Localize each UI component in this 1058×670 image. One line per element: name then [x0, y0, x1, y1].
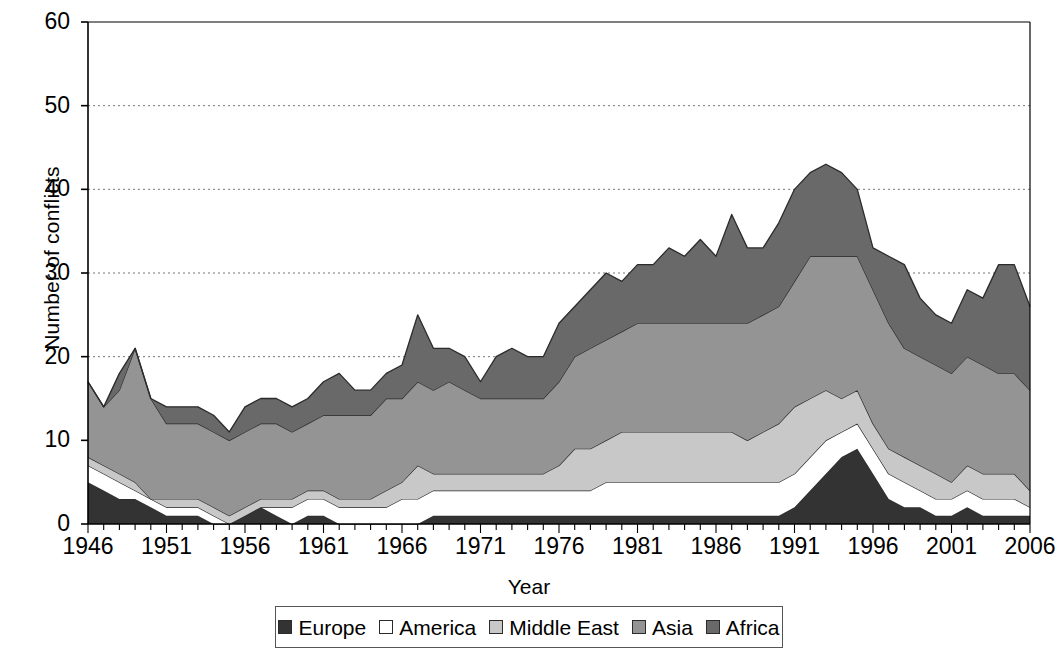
legend-label-asia: Asia: [652, 617, 693, 638]
legend-item[interactable]: Europe: [278, 617, 366, 638]
legend-label-america: America: [399, 617, 476, 638]
legend-swatch-middle-east: [489, 620, 503, 634]
legend-item[interactable]: Asia: [632, 617, 693, 638]
legend-item[interactable]: Africa: [706, 617, 780, 638]
chart-legend: Europe America Middle East Asia Africa: [275, 606, 783, 648]
legend-label-middle-east: Middle East: [509, 617, 619, 638]
legend-swatch-europe: [278, 620, 292, 634]
legend-label-africa: Africa: [726, 617, 780, 638]
stacked-area-plot: [0, 0, 1058, 670]
legend-swatch-asia: [632, 620, 646, 634]
legend-swatch-africa: [706, 620, 720, 634]
chart-container: Number of conflicts Year 0102030405060 1…: [0, 0, 1058, 670]
legend-label-europe: Europe: [298, 617, 366, 638]
legend-swatch-america: [379, 620, 393, 634]
legend-item[interactable]: America: [379, 617, 476, 638]
legend-item[interactable]: Middle East: [489, 617, 619, 638]
